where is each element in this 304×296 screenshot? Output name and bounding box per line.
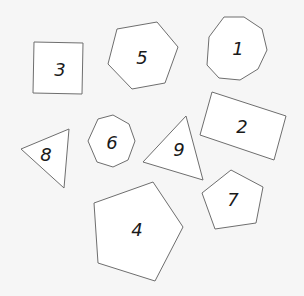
shape-square-3: 3 xyxy=(33,42,83,94)
shape-pentagon-7: 7 xyxy=(202,170,263,229)
shape-hexagon-5: 5 xyxy=(108,22,178,89)
shape-label: 3 xyxy=(54,59,65,80)
shape-rectangle-2: 2 xyxy=(200,92,286,160)
shapes-svg: 123456789 xyxy=(0,0,304,296)
shape-nonagon-1: 1 xyxy=(207,17,267,80)
shape-octagon-6: 6 xyxy=(88,115,135,167)
shape-label: 4 xyxy=(131,219,142,240)
shape-label: 9 xyxy=(173,139,184,160)
shapes-canvas: 123456789 xyxy=(0,0,304,296)
shape-label: 1 xyxy=(232,38,243,59)
shape-pentagon-4: 4 xyxy=(94,182,183,281)
shape-label: 2 xyxy=(236,116,247,137)
shape-label: 5 xyxy=(136,47,147,68)
shape-triangle-9: 9 xyxy=(143,116,203,180)
shape-label: 7 xyxy=(227,189,239,210)
shape-label: 8 xyxy=(40,144,51,165)
shape-triangle-8: 8 xyxy=(21,129,69,188)
shape-label: 6 xyxy=(106,132,117,153)
